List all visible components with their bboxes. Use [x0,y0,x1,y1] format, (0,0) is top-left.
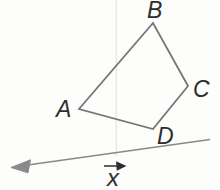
vertex-label-c: C [193,76,210,102]
vector-label-x: x [106,164,120,190]
vertex-label-a: A [54,96,71,122]
vertex-label-b: B [147,0,162,23]
diagram-canvas: B C A D x [0,0,220,190]
vector-x-arrowhead-icon [11,160,31,173]
geometry-figure: B C A D x [0,0,220,190]
quadrilateral-abcd [79,23,188,129]
vertex-label-d: D [157,123,174,149]
